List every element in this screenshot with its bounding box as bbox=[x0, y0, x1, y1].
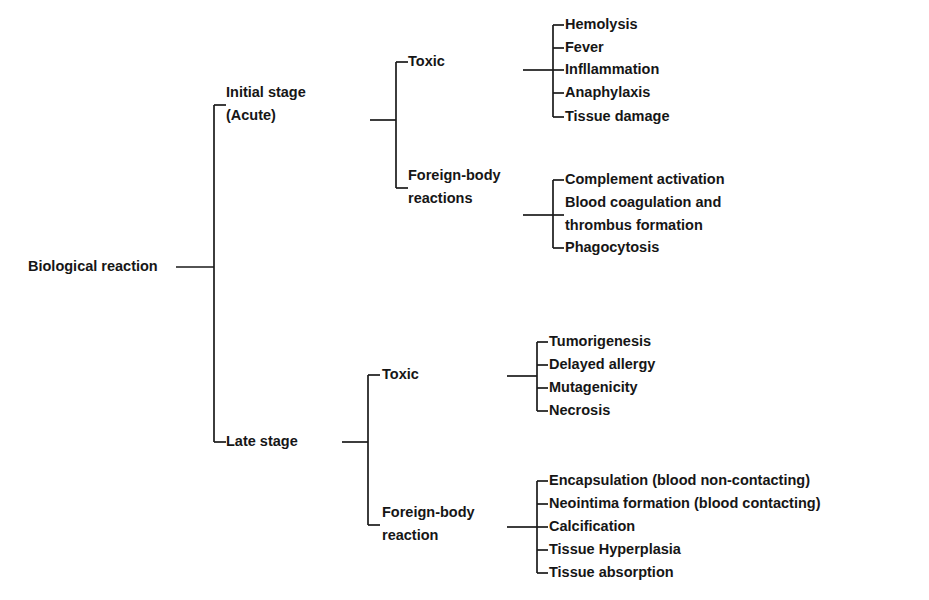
node-initial-stage-line-0: Initial stage bbox=[226, 84, 306, 100]
biological-reaction-tree: Biological reactionInitial stage(Acute)L… bbox=[0, 0, 929, 600]
leaf-late-foreignbody-0-line-0: Encapsulation (blood non-contacting) bbox=[549, 472, 810, 488]
leaf-initial-foreignbody-2-line-0: Phagocytosis bbox=[565, 239, 659, 255]
leaf-initial-toxic-4-line-0: Tissue damage bbox=[565, 108, 670, 124]
node-initial-foreign-body-line-1: reactions bbox=[408, 190, 472, 206]
leaf-initial-toxic-4: Tissue damage bbox=[565, 108, 670, 124]
leaf-late-foreignbody-2: Calcification bbox=[549, 518, 635, 534]
leaf-initial-toxic-2: Infllammation bbox=[565, 61, 659, 77]
leaf-initial-toxic-1: Fever bbox=[565, 39, 604, 55]
root-label-biological-reaction-line-0: Biological reaction bbox=[28, 258, 158, 274]
node-initial-foreign-body-line-0: Foreign-body bbox=[408, 167, 501, 183]
leaf-initial-toxic-2-line-0: Infllammation bbox=[565, 61, 659, 77]
leaf-initial-toxic-0: Hemolysis bbox=[565, 16, 638, 32]
leaf-late-foreignbody-4-line-0: Tissue absorption bbox=[549, 564, 674, 580]
leaf-late-toxic-0-line-0: Tumorigenesis bbox=[549, 333, 651, 349]
leaf-late-toxic-0: Tumorigenesis bbox=[549, 333, 651, 349]
leaf-initial-foreignbody-2: Phagocytosis bbox=[565, 239, 659, 255]
node-late-foreign-body: Foreign-bodyreaction bbox=[382, 504, 475, 543]
leaf-late-foreignbody-1: Neointima formation (blood contacting) bbox=[549, 495, 821, 511]
node-late-toxic: Toxic bbox=[382, 366, 419, 382]
root-label-biological-reaction: Biological reaction bbox=[28, 258, 158, 274]
leaf-late-foreignbody-3: Tissue Hyperplasia bbox=[549, 541, 682, 557]
leaf-initial-foreignbody-0-line-0: Complement activation bbox=[565, 171, 725, 187]
leaf-late-foreignbody-3-line-0: Tissue Hyperplasia bbox=[549, 541, 682, 557]
leaf-late-foreignbody-1-line-0: Neointima formation (blood contacting) bbox=[549, 495, 821, 511]
leaf-late-toxic-1-line-0: Delayed allergy bbox=[549, 356, 655, 372]
leaf-initial-toxic-3-line-0: Anaphylaxis bbox=[565, 84, 650, 100]
leaf-late-foreignbody-0: Encapsulation (blood non-contacting) bbox=[549, 472, 810, 488]
node-late-stage-line-0: Late stage bbox=[226, 433, 298, 449]
node-initial-toxic-line-0: Toxic bbox=[408, 53, 445, 69]
node-late-foreign-body-line-0: Foreign-body bbox=[382, 504, 475, 520]
node-initial-stage-line-1: (Acute) bbox=[226, 107, 276, 123]
node-initial-toxic: Toxic bbox=[408, 53, 445, 69]
leaf-late-toxic-3: Necrosis bbox=[549, 402, 610, 418]
leaf-initial-foreignbody-1: Blood coagulation andthrombus formation bbox=[565, 194, 721, 233]
leaf-initial-toxic-1-line-0: Fever bbox=[565, 39, 604, 55]
node-initial-foreign-body: Foreign-bodyreactions bbox=[408, 167, 501, 206]
leaf-initial-foreignbody-0: Complement activation bbox=[565, 171, 725, 187]
diagram-page: Biological reactionInitial stage(Acute)L… bbox=[0, 0, 929, 600]
leaf-initial-foreignbody-1-line-0: Blood coagulation and bbox=[565, 194, 721, 210]
leaf-initial-toxic-3: Anaphylaxis bbox=[565, 84, 650, 100]
node-initial-stage: Initial stage(Acute) bbox=[226, 84, 306, 123]
node-late-foreign-body-line-1: reaction bbox=[382, 527, 438, 543]
node-late-toxic-line-0: Toxic bbox=[382, 366, 419, 382]
leaf-late-toxic-3-line-0: Necrosis bbox=[549, 402, 610, 418]
leaf-late-toxic-2-line-0: Mutagenicity bbox=[549, 379, 638, 395]
leaf-late-toxic-1: Delayed allergy bbox=[549, 356, 655, 372]
leaf-initial-toxic-0-line-0: Hemolysis bbox=[565, 16, 638, 32]
leaf-initial-foreignbody-1-line-1: thrombus formation bbox=[565, 217, 703, 233]
leaf-late-toxic-2: Mutagenicity bbox=[549, 379, 638, 395]
leaf-late-foreignbody-2-line-0: Calcification bbox=[549, 518, 635, 534]
node-late-stage: Late stage bbox=[226, 433, 298, 449]
leaf-late-foreignbody-4: Tissue absorption bbox=[549, 564, 674, 580]
